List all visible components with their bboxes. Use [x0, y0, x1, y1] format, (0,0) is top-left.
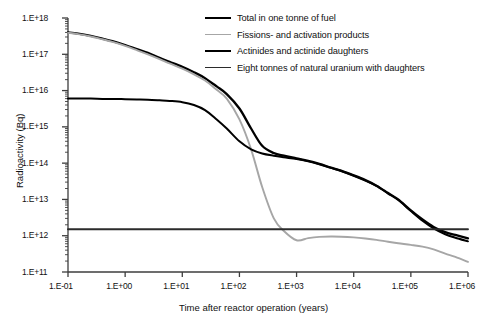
y-tick-label: 1.E+13: [22, 194, 48, 204]
chart-legend: Total in one tonne of fuelFissions- and …: [205, 10, 425, 76]
y-tick-label: 1.E+15: [22, 121, 48, 131]
y-tick-label: 1.E+12: [22, 230, 48, 240]
x-axis-title: Time after reactor operation (years): [179, 302, 328, 313]
x-tick-label: 1.E+01: [163, 281, 189, 291]
legend-label: Actinides and actinide daughters: [237, 46, 368, 56]
x-tick-label: 1.E+04: [335, 281, 361, 291]
y-axis-title: Radioactivity (Bq): [14, 114, 25, 188]
legend-swatch-icon: [205, 17, 231, 19]
chart-figure: 1.E+111.E+121.E+131.E+141.E+151.E+161.E+…: [0, 0, 485, 323]
legend-swatch-icon: [205, 34, 231, 35]
legend-label: Fissions- and activation products: [237, 30, 369, 40]
legend-label: Total in one tonne of fuel: [237, 13, 336, 23]
y-tick-label: 1.E+17: [22, 49, 48, 59]
x-tick-label: 1.E+03: [278, 281, 304, 291]
series-line-2: [68, 99, 468, 242]
x-tick-label: 1.E+02: [220, 281, 246, 291]
y-tick-label: 1.E+18: [22, 13, 48, 23]
legend-item-2[interactable]: Actinides and actinide daughters: [205, 43, 425, 60]
x-tick-label: 1.E+00: [106, 281, 132, 291]
legend-swatch-icon: [205, 67, 231, 68]
x-tick-label: 1.E+05: [392, 281, 418, 291]
y-tick-label: 1.E+16: [22, 85, 48, 95]
x-tick-label: 1.E+06: [449, 281, 475, 291]
legend-label: Eight tonnes of natural uranium with dau…: [237, 63, 425, 73]
x-tick-label: 1.E-01: [49, 281, 73, 291]
x-axis-major-ticks: [68, 272, 468, 277]
legend-item-0[interactable]: Total in one tonne of fuel: [205, 10, 425, 27]
legend-item-1[interactable]: Fissions- and activation products: [205, 27, 425, 44]
y-tick-label: 1.E+11: [22, 267, 47, 277]
legend-swatch-icon: [205, 50, 231, 52]
legend-item-3[interactable]: Eight tonnes of natural uranium with dau…: [205, 60, 425, 77]
y-tick-label: 1.E+14: [22, 158, 48, 168]
